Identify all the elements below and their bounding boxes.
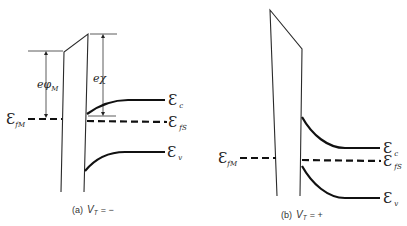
oxide-barrier-a [61, 34, 88, 192]
e-fs-label-a: ƐfS [168, 113, 187, 132]
e-fm-label-b: ƐfM [218, 149, 238, 168]
e-v-label-b: Ɛv [383, 189, 398, 208]
fermi-level-semiconductor-b [302, 160, 381, 161]
e-phi-m-label: eφM [37, 78, 59, 93]
conduction-band-a [87, 100, 165, 114]
conduction-band-b [302, 117, 380, 148]
e-fs-label-b: ƐfS [383, 152, 402, 171]
caption-a: (a)VT= − [72, 204, 114, 216]
panel-a: eφM eχ ƐfM Ɛc ƐfS Ɛv (a)VT= − [6, 34, 187, 216]
oxide-barrier-b [270, 10, 302, 196]
fermi-level-semiconductor-a [87, 121, 167, 122]
e-v-label-a: Ɛv [167, 143, 182, 162]
valence-band-b [302, 166, 380, 198]
e-fm-label-a: ƐfM [6, 110, 26, 129]
e-phi-m-dimension: eφM [28, 51, 63, 116]
mos-band-diagram: eφM eχ ƐfM Ɛc ƐfS Ɛv (a)VT= − ƐfM [0, 0, 407, 226]
panel-b: ƐfM Ɛc ƐfS Ɛv (b)VT= + [218, 10, 402, 221]
caption-b: (b)VT= + [281, 209, 323, 221]
e-chi-label: eχ [93, 72, 108, 85]
e-c-label-a: Ɛc [168, 91, 183, 110]
e-chi-dimension: eχ [88, 34, 117, 116]
valence-band-a [85, 152, 165, 171]
